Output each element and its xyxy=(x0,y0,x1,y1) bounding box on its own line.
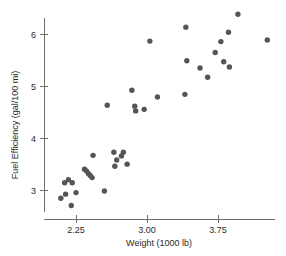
data-point xyxy=(73,190,78,195)
data-point xyxy=(133,108,138,113)
data-point xyxy=(124,161,129,166)
data-point xyxy=(205,75,210,80)
data-point xyxy=(105,103,110,108)
data-point xyxy=(70,180,75,185)
y-tick-label: 6 xyxy=(31,30,36,40)
data-point xyxy=(90,153,95,158)
data-point xyxy=(183,24,188,29)
y-tick-label: 5 xyxy=(31,82,36,92)
data-point xyxy=(112,164,117,169)
y-axis: 3456 xyxy=(31,18,48,212)
data-point xyxy=(69,203,74,208)
plot-canvas: 3456 2.253.003.75 Weight (1000 lb) Fuel … xyxy=(0,0,286,256)
data-point xyxy=(235,12,240,17)
data-points xyxy=(58,12,270,209)
x-axis-title: Weight (1000 lb) xyxy=(126,238,192,248)
data-point xyxy=(58,196,63,201)
x-tick-label: 3.75 xyxy=(209,225,227,235)
data-point xyxy=(132,104,137,109)
data-point xyxy=(63,191,68,196)
data-point xyxy=(141,107,146,112)
data-point xyxy=(227,64,232,69)
data-point xyxy=(121,150,126,155)
data-point xyxy=(184,58,189,63)
data-point xyxy=(221,59,226,64)
data-point xyxy=(147,38,152,43)
data-point xyxy=(218,39,223,44)
x-tick-label: 3.00 xyxy=(138,225,156,235)
data-point xyxy=(111,150,116,155)
data-point xyxy=(129,88,134,93)
x-tick-label: 2.25 xyxy=(67,225,85,235)
data-point xyxy=(155,94,160,99)
data-point xyxy=(226,30,231,35)
data-point xyxy=(89,175,94,180)
data-point xyxy=(265,37,270,42)
x-axis: 2.253.003.75 xyxy=(44,215,275,235)
y-tick-label: 4 xyxy=(31,134,36,144)
data-point xyxy=(197,65,202,70)
data-point xyxy=(182,92,187,97)
data-point xyxy=(213,50,218,55)
data-point xyxy=(114,157,119,162)
scatter-plot-figure: 3456 2.253.003.75 Weight (1000 lb) Fuel … xyxy=(0,0,286,256)
y-tick-label: 3 xyxy=(31,186,36,196)
y-axis-title: Fuel Efficiency (gal/100 mi) xyxy=(10,71,20,179)
data-point xyxy=(102,188,107,193)
